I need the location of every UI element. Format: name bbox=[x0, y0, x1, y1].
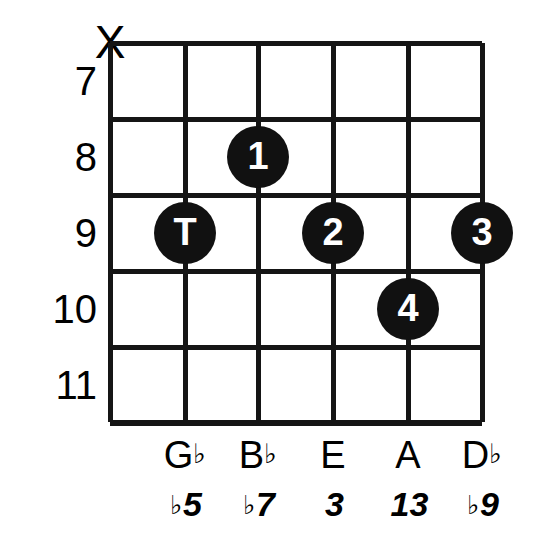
interval-string-1: ♭9 bbox=[467, 487, 499, 521]
finger-marker-label: T bbox=[173, 213, 196, 251]
note-letter: D bbox=[462, 434, 489, 476]
note-letter: E bbox=[320, 434, 345, 476]
flat-icon: ♭ bbox=[264, 439, 277, 469]
finger-marker-label: 1 bbox=[247, 137, 268, 175]
interval-string-2: 13 bbox=[390, 487, 429, 521]
string-line-4 bbox=[256, 43, 261, 422]
note-name-string-1: D♭ bbox=[462, 436, 502, 474]
flat-icon: ♭ bbox=[170, 490, 182, 520]
finger-marker-middle[interactable]: 2 bbox=[302, 202, 364, 264]
fret-number-10: 10 bbox=[7, 289, 97, 329]
interval-degree: 9 bbox=[480, 485, 499, 523]
finger-marker-label: 4 bbox=[397, 289, 418, 327]
note-name-string-5: G♭ bbox=[164, 436, 207, 474]
fret-number-column: 7 8 9 10 11 bbox=[0, 0, 97, 539]
finger-marker-index[interactable]: 1 bbox=[227, 126, 289, 188]
finger-marker-label: 3 bbox=[471, 213, 492, 251]
finger-marker-label: 2 bbox=[322, 213, 343, 251]
interval-degree: 5 bbox=[183, 485, 202, 523]
note-letter: A bbox=[395, 434, 420, 476]
finger-marker-thumb[interactable]: T bbox=[154, 202, 216, 264]
flat-icon: ♭ bbox=[243, 490, 255, 520]
fret-line-9-10 bbox=[110, 269, 482, 274]
note-letter: B bbox=[239, 434, 264, 476]
interval-degree: 3 bbox=[325, 485, 344, 523]
fret-line-8-9 bbox=[110, 193, 482, 198]
interval-string-5: ♭5 bbox=[170, 487, 202, 521]
note-name-string-4: B♭ bbox=[239, 436, 277, 474]
fret-number-9: 9 bbox=[7, 213, 97, 253]
flat-icon: ♭ bbox=[467, 490, 479, 520]
string-line-6 bbox=[108, 43, 113, 422]
string-line-2 bbox=[406, 43, 411, 422]
note-letter: G bbox=[164, 434, 194, 476]
fret-number-11: 11 bbox=[7, 365, 97, 405]
interval-degree: 7 bbox=[256, 485, 275, 523]
note-name-string-2: A bbox=[395, 436, 420, 474]
interval-degree: 13 bbox=[391, 485, 429, 523]
flat-icon: ♭ bbox=[489, 439, 502, 469]
fret-line-nut bbox=[110, 41, 482, 46]
interval-string-4: ♭7 bbox=[243, 487, 275, 521]
finger-marker-ring[interactable]: 4 bbox=[377, 278, 439, 340]
note-name-string-3: E bbox=[320, 436, 345, 474]
chord-diagram: 7 8 9 10 11 X T 1 2 4 3 G♭ bbox=[0, 0, 542, 539]
interval-string-3: 3 bbox=[324, 487, 344, 521]
finger-marker-pinky[interactable]: 3 bbox=[451, 202, 513, 264]
fret-number-7: 7 bbox=[7, 61, 97, 101]
fret-line-10-11 bbox=[110, 345, 482, 350]
fret-number-8: 8 bbox=[7, 137, 97, 177]
fret-line-bottom bbox=[110, 420, 482, 426]
flat-icon: ♭ bbox=[193, 439, 206, 469]
fret-line-7-8 bbox=[110, 117, 482, 122]
